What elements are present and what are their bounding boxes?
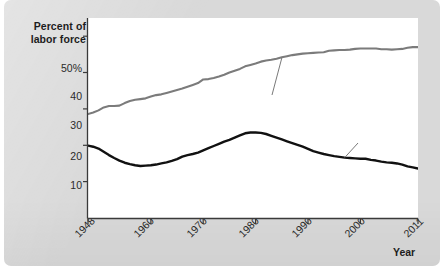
- axis-lines: [0, 0, 444, 272]
- chart-figure: Percent of labor force 50% 40 30 20 10 1…: [0, 0, 444, 272]
- outer-tick-marks: [83, 36, 418, 224]
